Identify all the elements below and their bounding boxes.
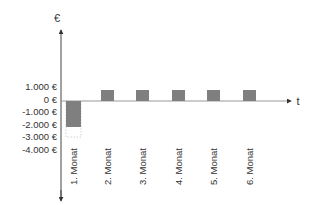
x-category-label: 2. Monat bbox=[102, 148, 113, 185]
bar-month-1 bbox=[66, 101, 81, 127]
x-category-label: 3. Monat bbox=[137, 148, 148, 185]
y-tick-label: 1.000 € bbox=[25, 81, 57, 92]
x-axis-title: t bbox=[296, 95, 299, 107]
x-category-label: 5. Monat bbox=[208, 148, 219, 185]
y-tick-labels: 1.000 € 0 € -1.000 € -2.000 € -3.000 € -… bbox=[22, 81, 58, 155]
y-tick-label: -3.000 € bbox=[22, 131, 58, 142]
bar-month-4 bbox=[172, 90, 185, 101]
y-tick-label: -1.000 € bbox=[22, 106, 58, 117]
bars bbox=[66, 90, 256, 137]
bar-month-3 bbox=[136, 90, 149, 101]
y-axis-title: € bbox=[54, 12, 60, 24]
x-category-label: 6. Monat bbox=[244, 148, 255, 185]
cash-flow-chart: € t 1.000 € 0 € -1.000 € -2.000 € -3.000… bbox=[0, 0, 325, 205]
bar-month-6 bbox=[243, 90, 256, 101]
bar-month-2 bbox=[101, 90, 114, 101]
y-tick-label: 0 € bbox=[44, 94, 58, 105]
y-tick-label: -2.000 € bbox=[22, 119, 58, 130]
x-category-label: 1. Monat bbox=[68, 148, 79, 185]
x-category-labels: 1. Monat 2. Monat 3. Monat 4. Monat 5. M… bbox=[68, 148, 255, 185]
x-category-label: 4. Monat bbox=[173, 148, 184, 185]
bar-month-5 bbox=[207, 90, 220, 101]
y-tick-label: -4.000 € bbox=[22, 144, 58, 155]
